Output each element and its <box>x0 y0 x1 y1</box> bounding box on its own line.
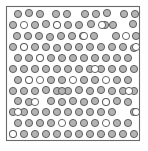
filled-particle <box>31 108 38 115</box>
filled-particle <box>20 130 27 137</box>
filled-particle <box>9 43 16 50</box>
filled-particle <box>119 43 126 50</box>
filled-particle <box>58 87 65 94</box>
filled-particle <box>46 33 53 40</box>
filled-particle <box>31 87 38 94</box>
filled-particle <box>81 10 88 17</box>
filled-particle <box>42 130 49 137</box>
open-particle <box>58 119 65 126</box>
filled-particle <box>75 43 82 50</box>
filled-particle <box>86 43 93 50</box>
filled-particle <box>75 108 82 115</box>
filled-particle <box>108 108 115 115</box>
filled-particle <box>69 54 76 61</box>
filled-particle <box>57 32 64 39</box>
filled-particle <box>75 21 82 28</box>
open-particle <box>36 76 43 83</box>
filled-particle <box>36 10 43 17</box>
filled-particle <box>91 76 98 83</box>
filled-particle <box>86 130 93 137</box>
filled-particle <box>36 119 43 126</box>
filled-particle <box>52 10 59 17</box>
open-particle <box>102 98 109 105</box>
filled-particle <box>31 65 38 72</box>
filled-particle <box>53 44 60 51</box>
open-particle <box>102 119 109 126</box>
filled-particle <box>129 20 136 27</box>
filled-particle <box>47 119 54 126</box>
filled-particle <box>80 76 87 83</box>
filled-particle <box>42 108 49 115</box>
filled-particle <box>58 76 65 83</box>
filled-particle <box>124 119 131 126</box>
filled-particle <box>113 76 120 83</box>
filled-particle <box>69 97 76 104</box>
filled-particle <box>20 65 27 72</box>
filled-particle <box>42 65 49 72</box>
filled-particle <box>31 43 38 50</box>
open-particle <box>14 108 21 115</box>
open-particle <box>132 108 139 115</box>
filled-particle <box>113 97 120 104</box>
open-particle <box>53 21 60 28</box>
filled-particle <box>132 32 139 39</box>
filled-particle <box>108 87 115 94</box>
filled-particle <box>24 32 31 39</box>
filled-particle <box>14 10 21 17</box>
particle-scatter-plot <box>0 0 148 151</box>
filled-particle <box>87 20 94 27</box>
open-particle <box>36 54 43 61</box>
filled-particle <box>53 130 60 137</box>
filled-particle <box>20 87 27 94</box>
filled-particle <box>80 119 87 126</box>
filled-particle <box>63 10 70 17</box>
filled-particle <box>91 97 98 104</box>
open-particle <box>80 32 87 39</box>
filled-particle <box>64 21 71 28</box>
filled-particle <box>103 9 110 16</box>
filled-particle <box>9 87 16 94</box>
filled-particle <box>47 97 54 104</box>
open-particle <box>25 76 32 83</box>
filled-particle <box>42 20 49 27</box>
filled-particle <box>9 65 16 72</box>
filled-particle <box>69 119 76 126</box>
open-particle <box>31 98 38 105</box>
open-particle <box>9 130 16 137</box>
filled-particle <box>108 65 115 72</box>
filled-particle <box>119 130 126 137</box>
open-particle <box>91 65 98 72</box>
filled-particle <box>75 65 82 72</box>
filled-particle <box>64 65 71 72</box>
open-particle <box>98 21 105 28</box>
open-particle <box>20 43 27 50</box>
filled-particle <box>64 43 71 50</box>
filled-particle <box>14 97 21 104</box>
filled-particle <box>58 54 65 61</box>
filled-particle <box>68 32 75 39</box>
filled-particle <box>124 76 131 83</box>
filled-particle <box>58 98 65 105</box>
filled-particle <box>120 10 127 17</box>
filled-particle <box>119 65 126 72</box>
filled-particle <box>53 65 60 72</box>
filled-particle <box>92 10 99 17</box>
filled-particle <box>31 21 38 28</box>
open-particle <box>132 43 139 50</box>
filled-particle <box>130 130 137 137</box>
open-particle <box>102 76 109 83</box>
filled-particle <box>14 76 21 83</box>
filled-particle <box>86 87 93 94</box>
open-particle <box>125 87 132 94</box>
filled-particle <box>86 108 93 115</box>
open-particle <box>69 76 76 83</box>
filled-particle <box>97 108 104 115</box>
filled-particle <box>47 54 54 61</box>
filled-particle <box>113 54 120 61</box>
filled-particle <box>9 21 16 28</box>
filled-particle <box>108 130 115 137</box>
filled-particle <box>102 54 109 61</box>
open-particle <box>122 32 129 39</box>
filled-particle <box>14 54 21 61</box>
filled-particle <box>109 21 116 28</box>
